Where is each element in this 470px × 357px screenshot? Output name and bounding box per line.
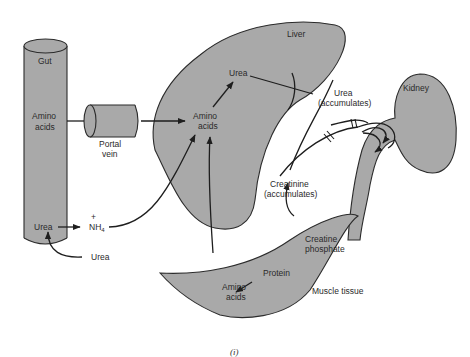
label-liver-amino-2: acids [198,121,218,131]
label-nh4: NH4 [89,222,105,233]
label-gut-amino-1: Amino [32,111,56,121]
label-portal-2: vein [102,149,118,159]
label-creatine-2: phosphate [305,244,345,254]
label-muscle-amino-1: Amino [222,282,246,292]
muscle-shape [160,214,358,317]
label-muscle: Muscle tissue [312,286,364,296]
label-liver-amino-1: Amino [193,111,217,121]
figure-caption: (i) [230,347,239,357]
gut [24,39,67,244]
label-liver-urea: Urea [229,68,248,78]
label-liver: Liver [287,29,306,39]
label-ext-urea: Urea [91,252,110,262]
label-nh4-plus: + [91,212,96,222]
label-urea-accum-1: Urea [334,88,353,98]
label-gut-urea: Urea [34,222,53,232]
label-kidney: Kidney [403,83,430,93]
metabolism-diagram: Gut Amino acids Portal vein Urea Urea NH… [0,0,470,357]
label-muscle-amino-2: acids [226,292,246,302]
label-gut: Gut [38,56,52,66]
label-protein: Protein [263,268,290,278]
label-creatine-1: Creatine [305,234,337,244]
portal-vein [67,105,138,137]
label-gut-amino-2: acids [35,122,55,132]
label-urea-accum-2: (accumulates) [318,98,372,108]
label-creatinine-2: (accumulates) [264,189,318,199]
label-portal-1: Portal [99,139,121,149]
label-creatinine-1: Creatinine [270,179,309,189]
